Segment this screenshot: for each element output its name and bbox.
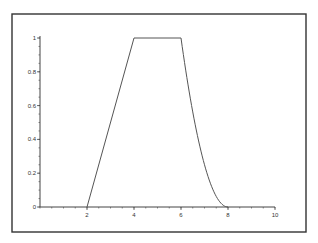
y-tick-label: 0.6: [28, 103, 37, 109]
x-tick-label: 10: [272, 212, 279, 218]
y-tick-label: 0.4: [28, 136, 37, 142]
outer-frame: [12, 14, 306, 232]
y-tick-label: 0.2: [28, 170, 37, 176]
chart: 24681000.20.40.60.81: [0, 0, 318, 243]
y-tick-label: 0.8: [28, 69, 37, 75]
